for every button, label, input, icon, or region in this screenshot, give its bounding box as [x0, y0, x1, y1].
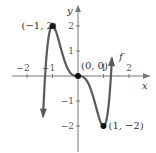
x-tick-label: 2 — [126, 63, 132, 73]
y-tick-label: 2 — [68, 21, 74, 31]
point-label: (1, −2) — [109, 120, 144, 131]
y-tick-label: 1 — [68, 46, 74, 56]
x-axis-label: x — [142, 80, 148, 91]
arrowhead-icon — [108, 56, 115, 66]
y-axis-arrow-icon — [75, 5, 81, 12]
point-marker — [75, 73, 81, 79]
y-tick-label: −2 — [61, 121, 74, 131]
y-tick-label: −1 — [61, 96, 74, 106]
x-tick-label: −2 — [16, 63, 29, 73]
point-label: (−1, 2) — [22, 20, 57, 31]
y-axis-label: y — [66, 5, 73, 16]
x-tick-label: −1 — [42, 63, 55, 73]
point-marker — [101, 123, 107, 129]
arrowhead-icon — [40, 108, 47, 118]
function-label: f — [118, 51, 125, 62]
x-axis-arrow-icon — [143, 73, 150, 79]
function-graph: −2−11221−1−2 x y f (−1, 2)(0, 0)(1, −2) — [0, 0, 156, 153]
point-label: (0, 0) — [81, 60, 108, 71]
